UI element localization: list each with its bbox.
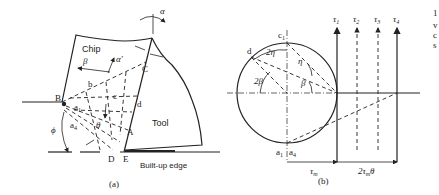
alpha-arc xyxy=(140,16,165,22)
margin-line-3: c xyxy=(433,30,437,40)
beta-label-b: β xyxy=(300,78,306,88)
slip-line-4 xyxy=(74,110,132,112)
eta-label: η xyxy=(298,56,303,66)
built-up-edge-label: Built-up edge xyxy=(140,161,188,170)
chip-label: Chip xyxy=(82,44,101,54)
two-beta-label: 2β xyxy=(254,76,264,86)
line-d-to-tau1 xyxy=(251,57,337,93)
alpha-prime-arrow xyxy=(108,58,114,73)
slip-line-3 xyxy=(70,96,138,98)
tau1-label: τ1 xyxy=(333,14,339,25)
point-D-label: D xyxy=(108,154,115,164)
point-A-label: A xyxy=(127,127,134,137)
slip-line-BD xyxy=(64,110,113,150)
phi-arc xyxy=(62,112,68,152)
figure-a: α β α′ Chip Tool Built-up edge B C xyxy=(22,6,220,189)
radius-to-d xyxy=(251,57,287,93)
caption-b: (b) xyxy=(318,176,329,186)
two-eta-label: 2η xyxy=(266,47,276,57)
figure-b: c1 d 2η η 2β β a1 a4 τm 2τmθ τ1 τ2 τ3 τ4… xyxy=(227,14,420,186)
d-label: d xyxy=(247,46,252,56)
beta-label: β xyxy=(82,56,88,66)
tau2-label: τ2 xyxy=(353,14,359,25)
phi-label: ϕ xyxy=(51,125,56,135)
tau3-label: τ3 xyxy=(374,14,380,25)
ortho-line-3 xyxy=(120,72,126,135)
a1-label-b: a1 xyxy=(276,147,283,158)
alpha-prime-tick-left xyxy=(135,46,145,50)
margin-line-4: s xyxy=(433,40,437,50)
eta-arc xyxy=(308,64,312,76)
c1-label: c1 xyxy=(278,30,285,41)
point-C-label: C xyxy=(142,64,148,74)
beta-arc xyxy=(309,82,312,93)
point-B-dot xyxy=(62,102,66,106)
point-d-label: d xyxy=(137,99,142,109)
theta-arrow-1 xyxy=(105,104,106,118)
a4-label-b: a4 xyxy=(289,147,296,158)
alpha-prime-label: α′ xyxy=(116,54,124,64)
tool-outline xyxy=(125,38,202,150)
line-a4-to-tau4 xyxy=(287,93,397,143)
caption-a: (a) xyxy=(109,179,119,189)
margin-line-2: v xyxy=(433,20,438,30)
margin-text: 1 v c s xyxy=(433,8,438,50)
figure-canvas: α β α′ Chip Tool Built-up edge B C xyxy=(0,0,439,195)
tau4-label: τ4 xyxy=(393,14,399,25)
theta-label: θ xyxy=(96,120,101,130)
point-B-label: B xyxy=(55,93,61,103)
two-tau-m-theta-label: 2τmθ xyxy=(358,166,375,177)
line-c1-to-tau1 xyxy=(287,43,337,93)
point-a1-label: a1 xyxy=(74,102,81,113)
theta-arrow-2 xyxy=(86,140,94,145)
margin-line-1: 1 xyxy=(433,8,438,18)
alpha-prime-tick-right xyxy=(150,54,163,57)
tool-label: Tool xyxy=(152,118,169,128)
point-E-label: E xyxy=(123,154,129,164)
tau-m-label: τm xyxy=(310,166,318,177)
beta-arrow xyxy=(78,68,110,72)
point-b-label: b xyxy=(88,79,93,89)
alpha-label: α xyxy=(160,6,165,16)
point-a4-label: a4 xyxy=(70,120,77,131)
point-c-label: c xyxy=(113,91,117,101)
